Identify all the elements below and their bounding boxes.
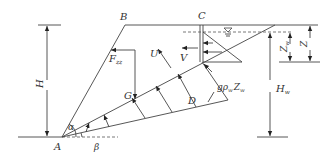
label-beta: β <box>93 142 99 152</box>
label-g: G <box>124 90 132 101</box>
label-c: C <box>198 10 206 21</box>
failure-plane-line <box>62 100 228 137</box>
label-u: U <box>150 48 159 59</box>
tension-crack <box>182 25 292 62</box>
zw-sub: w <box>284 41 290 46</box>
label-v: V <box>180 52 189 63</box>
label-alpha: α <box>68 122 74 132</box>
label-a: A <box>53 141 61 152</box>
pressure-sub: w <box>228 87 233 93</box>
label-z: Z <box>299 40 309 48</box>
pressure-z-sub: w <box>240 87 245 93</box>
hw-main: H <box>275 83 285 94</box>
label-hw: Hw <box>275 83 291 95</box>
pressure-label-leader <box>208 92 214 102</box>
label-b: B <box>119 11 127 22</box>
fzz-sub: zz <box>115 58 123 65</box>
hydrostatic-triangle <box>203 32 242 62</box>
hw-sub: w <box>285 88 291 95</box>
label-fzz: Fzz <box>108 53 123 65</box>
pressure-main: gρ <box>217 82 229 92</box>
label-d: D <box>187 95 196 106</box>
uplift-arrow-3 <box>132 98 145 118</box>
slope-stability-diagram: B C A G D U V Fzz gρwZw α β H Hw Zw Z <box>0 0 330 154</box>
beta-arc <box>81 133 82 137</box>
u-force-arrow <box>158 49 171 68</box>
slope-geometry <box>18 25 318 137</box>
label-h: H <box>34 79 45 89</box>
label-pressure: gρwZw <box>217 82 245 93</box>
uplift-arrow-2 <box>104 115 109 127</box>
label-zw: Zw <box>279 41 290 53</box>
water-table-icon <box>224 28 232 32</box>
uplift-boundary-line <box>202 62 228 100</box>
uplift-arrow-4 <box>156 86 172 112</box>
uplift-distribution <box>86 49 228 132</box>
